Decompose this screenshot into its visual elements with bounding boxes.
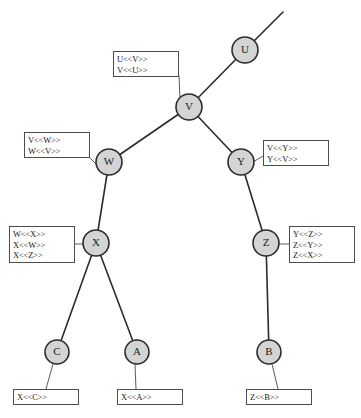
annotation-leader-uv [179, 76, 180, 99]
node-v[interactable]: V [176, 94, 202, 120]
node-c[interactable]: C [45, 340, 69, 364]
node-w[interactable]: W [96, 149, 122, 175]
annotation-line-yzx-0: Y<<Z>> [293, 229, 351, 240]
node-label-v: V [185, 100, 193, 112]
node-label-x: X [92, 236, 100, 248]
annotation-box-uv: U<<V>>V<<U>> [113, 51, 179, 77]
annotation-box-xa: X<<A>> [117, 389, 183, 405]
annotation-line-xa-0: X<<A>> [121, 392, 179, 403]
annotation-line-uv-0: U<<V>> [117, 54, 175, 65]
annotation-line-yzx-1: Z<<Y>> [293, 240, 351, 251]
node-y[interactable]: Y [228, 149, 254, 175]
tree-edge-v-w [109, 107, 189, 162]
tree-diagram-canvas: UVWYXZCAB U<<V>>V<<U>>V<<W>>W<<V>>V<<Y>>… [0, 0, 361, 418]
annotation-line-xc-0: X<<C>> [17, 392, 75, 403]
node-label-y: Y [237, 155, 245, 167]
annotation-box-wxz: W<<X>>X<<W>>X<<Z>> [9, 226, 75, 263]
node-b[interactable]: B [257, 340, 281, 364]
node-label-a: A [133, 345, 141, 357]
annotation-line-vy-0: V<<Y>> [267, 143, 325, 154]
node-label-c: C [53, 345, 60, 357]
annotation-line-vy-1: Y<<V>> [267, 154, 325, 165]
tree-edge-x-a [96, 243, 137, 352]
annotation-line-wxz-0: W<<X>> [13, 229, 71, 240]
annotation-box-xc: X<<C>> [13, 389, 79, 405]
diagram-graphics-layer: UVWYXZCAB [0, 0, 361, 418]
annotation-line-uv-1: V<<U>> [117, 65, 175, 76]
node-u[interactable]: U [232, 37, 258, 63]
node-z[interactable]: Z [253, 230, 279, 256]
annotation-leader-xa [135, 364, 136, 389]
annotation-box-vy: V<<Y>>Y<<V>> [263, 140, 329, 166]
annotation-line-zb-0: Z<<B>> [250, 392, 308, 403]
annotation-line-wxz-2: X<<Z>> [13, 250, 71, 261]
annotation-line-wxz-1: X<<W>> [13, 240, 71, 251]
node-x[interactable]: X [83, 230, 109, 256]
tree-edge-z-b [266, 243, 269, 352]
annotation-line-vw-0: V<<W>> [28, 135, 86, 146]
annotation-leader-zb [272, 364, 278, 389]
annotation-box-zb: Z<<B>> [246, 389, 312, 405]
annotation-box-vw: V<<W>>W<<V>> [24, 132, 90, 158]
node-label-u: U [241, 43, 249, 55]
node-label-z: Z [263, 236, 270, 248]
node-a[interactable]: A [125, 340, 149, 364]
annotation-leader-lines-layer [46, 76, 289, 389]
annotation-leader-xc [46, 364, 53, 389]
node-label-b: B [265, 345, 272, 357]
annotation-line-yzx-2: Z<<X>> [293, 250, 351, 261]
nodes-layer: UVWYXZCAB [45, 37, 281, 364]
annotation-box-yzx: Y<<Z>>Z<<Y>>Z<<X>> [289, 226, 355, 263]
node-label-w: W [104, 155, 115, 167]
annotation-line-vw-1: W<<V>> [28, 146, 86, 157]
